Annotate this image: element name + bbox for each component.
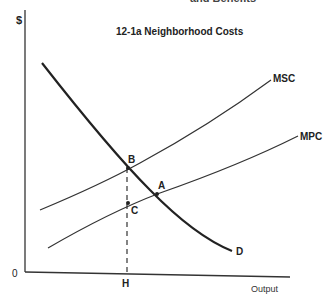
point-c (126, 201, 130, 205)
msc-curve (40, 80, 271, 210)
mpc-label: MPC (300, 131, 322, 142)
economics-diagram (0, 0, 334, 300)
msc-label: MSC (273, 73, 295, 84)
y-axis-label: $ (16, 14, 22, 26)
demand-label: D (236, 246, 243, 257)
mpc-curve (48, 136, 298, 248)
x-axis-label: Output (251, 284, 278, 294)
point-a-label: A (158, 180, 165, 191)
demand-curve (42, 63, 232, 251)
point-b-label: B (128, 154, 135, 165)
point-a (155, 192, 159, 196)
point-c-label: C (131, 205, 138, 216)
h-label: H (122, 278, 129, 289)
origin-label: 0 (12, 268, 18, 279)
point-b (126, 166, 130, 170)
figure-title: 12-1a Neighborhood Costs (116, 26, 243, 37)
x-axis (25, 272, 290, 277)
